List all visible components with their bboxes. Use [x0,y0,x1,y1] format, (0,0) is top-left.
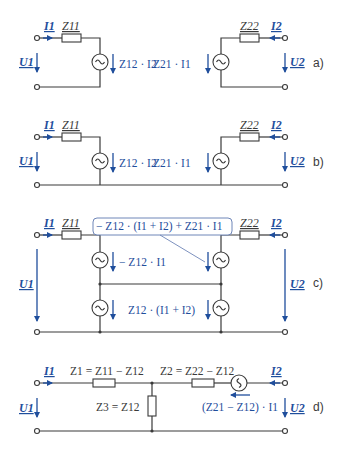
label-z1: Z1 = Z11 − Z12 [70,365,144,377]
label-z22: Z22 [240,118,259,132]
terminal-2-bottom [283,183,288,188]
resistor-z11 [62,231,81,239]
label-left-source: Z12 · I2 [119,157,157,169]
circuit-c: I1 Z11 U1 − Z12 · I1 Z12 · (I1 + I2) I2 … [19,216,323,335]
circuit-d: I1 I2 U1 U2 Z1 = Z11 − Z12 Z2 = Z22 − Z1… [19,364,324,434]
resistor-z11 [62,133,81,141]
label-z11: Z11 [62,216,80,230]
label-u2: U2 [290,401,305,415]
label-u1: U1 [19,154,34,168]
label-i1: I1 [43,19,55,33]
resistor-z22 [240,34,259,42]
part-label-b: b) [313,155,324,169]
terminal-2-bottom [283,330,288,335]
terminal-2-top [283,135,288,140]
terminal-1-top [35,381,40,386]
label-right-source: Z21 · I1 [153,58,191,70]
resistor-z22 [240,133,259,141]
terminal-1-bottom [35,85,40,90]
label-i2: I2 [270,19,282,33]
label-z2: Z2 = Z22 − Z12 [160,365,235,377]
resistor-z1 [93,379,115,387]
label-z22: Z22 [240,19,259,33]
label-i2: I2 [270,118,282,132]
label-z3: Z3 = Z12 [96,401,140,413]
resistor-z11 [62,34,81,42]
terminal-1-bottom [35,183,40,188]
callout-text: − Z12 · (I1 + I2) + Z21 · I1 [96,220,223,233]
terminal-1-top [35,233,40,238]
part-label-d: d) [313,400,324,414]
resistor-z3 [148,396,156,416]
circuit-b: I1 Z11 U1 Z12 · I2 I2 Z22 U2 Z21 · I1 b) [19,118,324,188]
label-u2: U2 [290,277,305,291]
terminal-1-top [35,135,40,140]
resistor-z2 [192,379,214,387]
circuit-a: I1 Z11 U1 Z12 · I2 I2 Z22 U2 Z21 · I1 a) [19,19,324,90]
label-upper-left-source: − Z12 · I1 [119,256,166,268]
resistor-z22 [240,231,259,239]
label-left-source: Z12 · I2 [119,58,157,70]
part-label-c: c) [313,276,323,290]
label-lower-source: Z12 · (I1 + I2) [128,304,195,317]
terminal-2-bottom [283,85,288,90]
label-i1: I1 [43,216,55,230]
label-u2: U2 [290,154,305,168]
label-i1: I1 [43,118,55,132]
label-u1: U1 [19,401,34,415]
terminal-2-top [283,36,288,41]
label-i2: I2 [270,216,282,230]
terminal-2-top [283,381,288,386]
label-i2: I2 [270,364,282,378]
label-right-source: Z21 · I1 [153,157,191,169]
two-port-diagram: I1 Z11 U1 Z12 · I2 I2 Z22 U2 Z21 · I1 a) [0,0,344,455]
label-z11: Z11 [62,118,80,132]
label-z22: Z22 [240,216,259,230]
label-u2: U2 [290,55,305,69]
label-u1: U1 [19,277,34,291]
label-u1: U1 [19,55,34,69]
terminal-2-bottom [283,429,288,434]
terminal-1-bottom [35,429,40,434]
terminal-2-top [283,233,288,238]
terminal-1-top [35,36,40,41]
callout-leader [160,235,205,262]
label-z11: Z11 [62,19,80,33]
part-label-a: a) [313,56,324,70]
label-source: (Z21 − Z12) · I1 [202,401,278,414]
label-i1: I1 [43,364,55,378]
terminal-1-bottom [35,330,40,335]
